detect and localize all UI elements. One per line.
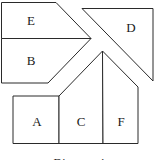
diagram-caption: Diagram 4 [54,156,105,160]
label-b: B [27,53,36,68]
puzzle-diagram: E B D A C F Diagram 4 [0,0,158,160]
label-d: D [126,20,135,35]
label-f: F [117,114,124,129]
piece-e [2,3,92,39]
piece-f [103,51,139,144]
label-e: E [27,13,35,28]
label-c: C [77,114,86,129]
label-a: A [32,114,42,129]
